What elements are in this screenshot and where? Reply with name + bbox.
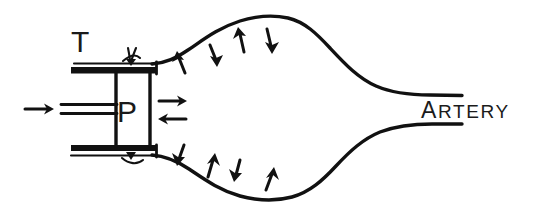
probe-arrow-left xyxy=(158,114,186,125)
upper-arrow-up-2 xyxy=(233,27,246,52)
lower-artery-wall xyxy=(152,124,462,200)
flow-in-arrow-right xyxy=(25,104,54,115)
upper-mounting-plate xyxy=(71,62,157,74)
probe-label: P xyxy=(117,97,137,127)
transducer-label: T xyxy=(71,27,89,57)
artery-probe-diagram: .ink { fill: none; stroke: #111111; stro… xyxy=(0,0,535,216)
lower-arrow-down-2 xyxy=(229,160,242,182)
upper-artery-wall xyxy=(152,16,462,95)
lower-arrow-up-2 xyxy=(266,167,279,190)
artery-label-rest: RTERY xyxy=(438,101,510,122)
artery-label-initial: A xyxy=(421,97,438,123)
upper-arrow-down-1 xyxy=(210,45,223,67)
lower-arrow-down-1 xyxy=(172,145,185,166)
upper-arrow-down-2 xyxy=(265,29,279,54)
catheter-twin-lines xyxy=(61,105,117,114)
lower-arrow-up-1 xyxy=(207,153,220,177)
artery-label: ARTERY xyxy=(421,99,510,122)
lower-mounting-plate xyxy=(71,145,157,157)
probe-arrow-right xyxy=(159,96,187,107)
